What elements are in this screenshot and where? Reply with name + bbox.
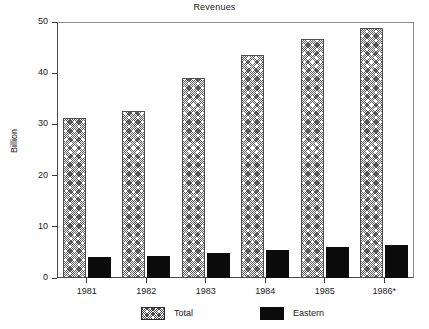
x-tick-label: 1982 xyxy=(122,286,170,296)
x-tick-mark xyxy=(146,278,147,283)
y-tick-label: 20 xyxy=(38,170,48,180)
plot-area xyxy=(57,22,414,278)
bar-total-1983 xyxy=(182,78,205,278)
chart-title: Revenues xyxy=(0,2,429,12)
bar-total-1986-est xyxy=(360,28,383,278)
y-tick-label: 10 xyxy=(38,221,48,231)
x-tick-label: 1984 xyxy=(241,286,289,296)
y-tick-label: 30 xyxy=(38,118,48,128)
x-tick-mark xyxy=(384,278,385,283)
bar-eastern-1986-est xyxy=(385,245,408,278)
x-tick-label: 1981 xyxy=(63,286,111,296)
bar-total-1985 xyxy=(301,39,324,278)
bar-eastern-1985 xyxy=(326,247,349,278)
legend-swatch-eastern-icon xyxy=(260,307,284,320)
bar-total-1981 xyxy=(63,118,86,278)
bar-total-1982 xyxy=(122,111,145,278)
y-tick-label: 40 xyxy=(38,67,48,77)
y-axis-label: Billion xyxy=(9,111,19,171)
legend-swatch-total-icon xyxy=(141,307,165,320)
legend-item-eastern[interactable]: Eastern xyxy=(260,303,324,323)
bar-total-1984 xyxy=(241,55,264,278)
y-tick-label: 50 xyxy=(38,16,48,26)
revenues-bar-chart: Revenues Billion 01020304050 19811982198… xyxy=(0,0,429,329)
bar-eastern-1984 xyxy=(266,250,289,278)
x-tick-mark xyxy=(265,278,266,283)
x-tick-mark xyxy=(86,278,87,283)
y-tick-label: 0 xyxy=(43,272,48,282)
bar-eastern-1981 xyxy=(88,257,111,278)
x-tick-mark xyxy=(205,278,206,283)
x-tick-label: 1985 xyxy=(301,286,349,296)
x-tick-mark xyxy=(324,278,325,283)
legend-label: Eastern xyxy=(293,308,324,318)
chart-legend: TotalEastern xyxy=(0,303,429,327)
bar-eastern-1983 xyxy=(207,253,230,278)
x-tick-label: 1983 xyxy=(182,286,230,296)
legend-item-total[interactable]: Total xyxy=(141,303,193,323)
x-tick-label: 1986* xyxy=(360,286,408,296)
bar-eastern-1982 xyxy=(147,256,170,278)
legend-label: Total xyxy=(174,308,193,318)
